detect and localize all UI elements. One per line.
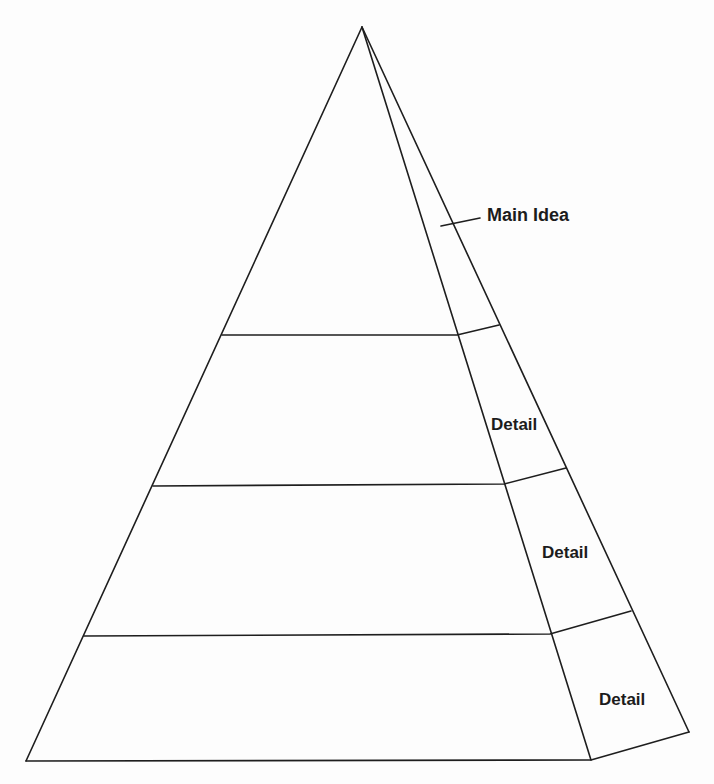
pyramid-left-edge (26, 27, 362, 761)
detail-label-2: Detail (542, 544, 588, 561)
pyramid-front-right-edge (362, 27, 591, 760)
main-idea-leader-line (441, 218, 480, 226)
detail-label-1: Detail (491, 416, 537, 433)
pyramid-drawing (0, 0, 714, 784)
main-idea-label: Main Idea (487, 206, 569, 224)
pyramid-back-right-edge (362, 27, 689, 732)
level-divider-2 (153, 468, 566, 486)
detail-label-3: Detail (599, 691, 645, 708)
pyramid-diagram: Main Idea Detail Detail Detail (0, 0, 714, 784)
